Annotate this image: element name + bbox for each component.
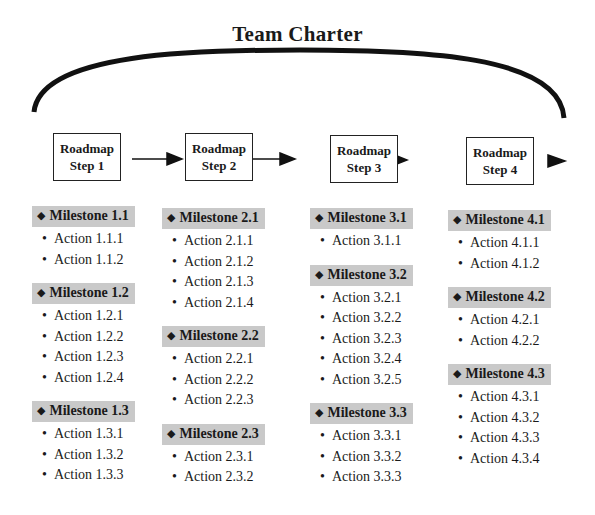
charter-arc	[34, 50, 564, 118]
action-item: •Action 3.2.4	[310, 349, 413, 370]
step-label-line1: Roadmap	[60, 140, 114, 157]
bullet-icon: •	[458, 408, 463, 429]
roadmap-step-4: RoadmapStep 4	[466, 137, 534, 185]
action-item: •Action 1.2.1	[32, 306, 135, 327]
action-label: Action 1.3.1	[54, 426, 124, 441]
diamond-icon: ◆	[453, 290, 461, 302]
action-item: •Action 1.3.2	[32, 445, 135, 466]
action-item: •Action 4.2.2	[448, 331, 551, 352]
milestone-header: ◆Milestone 1.2	[32, 283, 135, 304]
milestone-column-4: ◆Milestone 4.1•Action 4.1.1•Action 4.1.2…	[448, 210, 551, 482]
milestone-header: ◆Milestone 4.2	[448, 287, 551, 308]
action-label: Action 4.1.1	[470, 235, 540, 250]
action-label: Action 4.2.2	[470, 333, 540, 348]
action-item: •Action 2.2.2	[162, 370, 265, 391]
bullet-icon: •	[320, 288, 325, 309]
milestone-group: ◆Milestone 3.3•Action 3.3.1•Action 3.3.2…	[310, 403, 413, 488]
action-item: •Action 3.2.2	[310, 308, 413, 329]
diamond-icon: ◆	[167, 427, 175, 439]
milestone-group: ◆Milestone 2.3•Action 2.3.1•Action 2.3.2	[162, 424, 265, 488]
step-label-line1: Roadmap	[337, 142, 391, 159]
action-item: •Action 1.2.4	[32, 368, 135, 389]
action-item: •Action 1.1.2	[32, 250, 135, 271]
action-list: •Action 1.1.1•Action 1.1.2	[32, 229, 135, 270]
action-item: •Action 4.1.1	[448, 233, 551, 254]
milestone-group: ◆Milestone 4.1•Action 4.1.1•Action 4.1.2	[448, 210, 551, 274]
action-label: Action 4.3.1	[470, 389, 540, 404]
milestone-header: ◆Milestone 4.3	[448, 364, 551, 385]
diamond-icon: ◆	[453, 213, 461, 225]
bullet-icon: •	[458, 428, 463, 449]
diamond-icon: ◆	[37, 286, 45, 298]
action-label: Action 2.3.2	[184, 469, 254, 484]
action-item: •Action 1.1.1	[32, 229, 135, 250]
milestone-label: Milestone 3.3	[327, 405, 406, 420]
action-item: •Action 4.2.1	[448, 310, 551, 331]
milestone-label: Milestone 2.1	[179, 210, 258, 225]
bullet-icon: •	[172, 293, 177, 314]
milestone-column-3: ◆Milestone 3.1•Action 3.1.1◆Milestone 3.…	[310, 208, 413, 501]
action-label: Action 1.2.3	[54, 349, 124, 364]
action-label: Action 2.1.2	[184, 254, 254, 269]
action-list: •Action 4.1.1•Action 4.1.2	[448, 233, 551, 274]
action-label: Action 3.2.2	[332, 310, 402, 325]
action-label: Action 4.3.4	[470, 451, 540, 466]
bullet-icon: •	[172, 467, 177, 488]
diamond-icon: ◆	[167, 211, 175, 223]
action-item: •Action 2.2.1	[162, 349, 265, 370]
action-list: •Action 4.2.1•Action 4.2.2	[448, 310, 551, 351]
bullet-icon: •	[320, 447, 325, 468]
action-item: •Action 3.2.5	[310, 370, 413, 391]
action-item: •Action 2.1.4	[162, 293, 265, 314]
action-list: •Action 2.2.1•Action 2.2.2•Action 2.2.3	[162, 349, 265, 411]
bullet-icon: •	[42, 229, 47, 250]
action-item: •Action 3.2.1	[310, 288, 413, 309]
milestone-label: Milestone 1.2	[49, 285, 128, 300]
action-label: Action 2.2.3	[184, 392, 254, 407]
step-label-line2: Step 2	[192, 157, 246, 174]
action-label: Action 3.2.1	[332, 290, 402, 305]
diamond-icon: ◆	[315, 268, 323, 280]
action-item: •Action 3.3.2	[310, 447, 413, 468]
roadmap-step-1: RoadmapStep 1	[53, 133, 121, 181]
action-item: •Action 3.1.1	[310, 231, 413, 252]
milestone-group: ◆Milestone 1.1•Action 1.1.1•Action 1.1.2	[32, 206, 135, 270]
bullet-icon: •	[42, 424, 47, 445]
action-item: •Action 2.2.3	[162, 390, 265, 411]
action-label: Action 1.1.2	[54, 252, 124, 267]
arrow-1-2	[132, 153, 182, 165]
action-label: Action 2.2.2	[184, 372, 254, 387]
action-item: •Action 1.2.2	[32, 327, 135, 348]
milestone-group: ◆Milestone 1.3•Action 1.3.1•Action 1.3.2…	[32, 401, 135, 486]
diamond-icon: ◆	[315, 211, 323, 223]
milestone-group: ◆Milestone 2.2•Action 2.2.1•Action 2.2.2…	[162, 326, 265, 411]
action-label: Action 2.1.1	[184, 233, 254, 248]
action-list: •Action 3.3.1•Action 3.3.2•Action 3.3.3	[310, 426, 413, 488]
action-item: •Action 3.3.1	[310, 426, 413, 447]
action-label: Action 4.3.2	[470, 410, 540, 425]
milestone-column-2: ◆Milestone 2.1•Action 2.1.1•Action 2.1.2…	[162, 208, 265, 501]
action-list: •Action 3.1.1	[310, 231, 413, 252]
milestone-group: ◆Milestone 3.1•Action 3.1.1	[310, 208, 413, 252]
diamond-icon: ◆	[37, 209, 45, 221]
action-label: Action 3.1.1	[332, 233, 402, 248]
action-label: Action 4.3.3	[470, 430, 540, 445]
milestone-group: ◆Milestone 3.2•Action 3.2.1•Action 3.2.2…	[310, 265, 413, 391]
action-label: Action 2.3.1	[184, 449, 254, 464]
action-item: •Action 2.1.1	[162, 231, 265, 252]
bullet-icon: •	[42, 445, 47, 466]
bullet-icon: •	[172, 252, 177, 273]
bullet-icon: •	[42, 250, 47, 271]
action-item: •Action 4.3.3	[448, 428, 551, 449]
action-item: •Action 1.3.3	[32, 465, 135, 486]
action-label: Action 1.2.2	[54, 329, 124, 344]
action-item: •Action 4.3.2	[448, 408, 551, 429]
action-item: •Action 4.3.1	[448, 387, 551, 408]
action-list: •Action 2.3.1•Action 2.3.2	[162, 447, 265, 488]
step-label-line2: Step 4	[473, 161, 527, 178]
roadmap-step-2: RoadmapStep 2	[185, 133, 253, 181]
milestone-group: ◆Milestone 4.3•Action 4.3.1•Action 4.3.2…	[448, 364, 551, 469]
milestone-label: Milestone 2.3	[179, 426, 258, 441]
action-list: •Action 1.3.1•Action 1.3.2•Action 1.3.3	[32, 424, 135, 486]
bullet-icon: •	[42, 347, 47, 368]
